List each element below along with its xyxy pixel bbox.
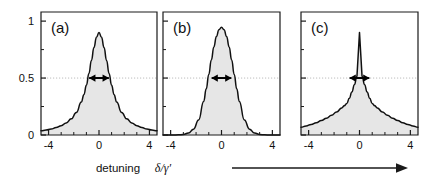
x-tick-label: 4 [269,139,275,151]
x-tick-label: 0 [356,139,362,151]
x-axis-label-word: detuning [96,162,140,174]
panel-tag: (b) [173,19,191,36]
panel-c: -404(c) [301,12,418,151]
y-tick-label: 0.5 [19,72,34,84]
x-tick-label: 0 [96,139,102,151]
figure-canvas: -40400.51(a)-404(b)-404(c)detuningδ/γ′ [0,0,435,183]
panel-tag: (a) [51,19,69,36]
panel-a: -40400.51(a) [19,12,157,151]
curve-fill [301,33,418,136]
x-tick-label: 0 [218,139,224,151]
panel-b: -404(b) [163,12,280,151]
x-tick-label: -4 [166,139,176,151]
x-tick-label: 4 [146,139,152,151]
x-axis-label-symbol: δ/γ′ [155,161,172,175]
y-tick-label: 1 [28,15,34,27]
trend-arrow-icon [232,163,408,173]
lineshape-figure: -40400.51(a)-404(b)-404(c)detuningδ/γ′ [0,0,435,183]
x-tick-label: -4 [44,139,54,151]
curve-fill [41,33,157,136]
x-tick-label: 4 [407,139,413,151]
x-tick-label: -4 [304,139,314,151]
y-tick-label: 0 [28,129,34,141]
panel-tag: (c) [311,19,329,36]
curve-fill [163,27,280,135]
